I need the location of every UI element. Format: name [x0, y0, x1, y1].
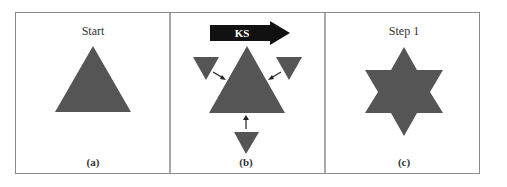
ks-arrow-label: KS [235, 27, 250, 39]
small-triangle-right [276, 57, 302, 80]
star-shape [365, 47, 443, 136]
small-triangle-left [193, 57, 219, 80]
panel-b-caption: (b) [239, 156, 253, 169]
start-triangle [55, 46, 131, 112]
panel-c: Step 1 (c) [365, 24, 443, 169]
small-triangle-bottom [234, 132, 259, 154]
panel-c-caption: (c) [398, 156, 411, 169]
panel-b: KS (b) [193, 21, 302, 169]
ks-arrow: KS [210, 21, 290, 45]
panel-c-title: Step 1 [389, 24, 419, 38]
panel-a-caption: (a) [87, 156, 100, 169]
center-triangle [209, 46, 285, 113]
panel-a: Start (a) [55, 24, 131, 169]
panel-a-title: Start [82, 24, 105, 38]
ks-arrow-shape [210, 21, 290, 45]
koch-snowflake-diagram: Start (a) KS (b) Step 1 (c) [0, 0, 507, 187]
